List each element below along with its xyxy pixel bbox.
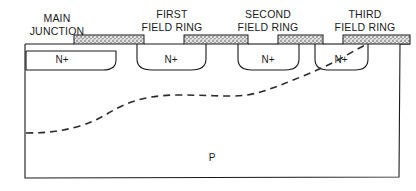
substrate-label: P xyxy=(209,152,216,163)
callout-second-field-ring-line2: FIELD RING xyxy=(238,21,299,33)
callout-main-junction-line2: JUNCTION xyxy=(30,25,85,37)
cross-section-diagram: MAIN JUNCTION FIRST FIELD RING SECOND FI… xyxy=(0,0,416,191)
callout-third-field-ring-line1: THIRD xyxy=(348,8,381,20)
well-label-second-ring: N+ xyxy=(261,54,274,65)
main-junction-well xyxy=(25,51,116,70)
oxide-block-4 xyxy=(343,35,410,44)
callout-third-field-ring-line2: FIELD RING xyxy=(335,21,396,33)
callout-main-junction-line1: MAIN xyxy=(43,12,70,24)
oxide-block-1 xyxy=(74,35,144,44)
callout-first-field-ring-line2: FIELD RING xyxy=(142,21,203,33)
figure-canvas: MAIN JUNCTION FIRST FIELD RING SECOND FI… xyxy=(0,0,416,191)
oxide-block-2 xyxy=(184,35,248,44)
callout-second-field-ring-line1: SECOND xyxy=(245,8,291,20)
well-label-first-ring: N+ xyxy=(164,54,177,65)
depletion-boundary xyxy=(26,44,368,133)
well-label-third-ring: N+ xyxy=(334,54,347,65)
oxide-block-3 xyxy=(278,35,323,44)
callout-first-field-ring-line1: FIRST xyxy=(156,8,188,20)
well-label-main-junction: N+ xyxy=(55,54,68,65)
